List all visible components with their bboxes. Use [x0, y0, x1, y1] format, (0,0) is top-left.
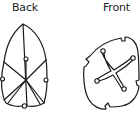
- front-outline: [84, 37, 139, 109]
- diagram-canvas: [0, 0, 140, 124]
- back-left-dot-icon: [1, 77, 5, 81]
- front-arm-dot-icon: [122, 87, 126, 91]
- front-arm-dot-icon: [95, 79, 99, 83]
- back-top-dot-icon: [24, 57, 28, 61]
- front-arm-dot-icon: [101, 49, 105, 53]
- back-bottom-dot-icon: [22, 104, 26, 108]
- front-cross: [97, 52, 133, 89]
- front-arm-dot-icon: [131, 56, 135, 60]
- back-right-dot-icon: [44, 78, 48, 82]
- back-view-figure: [1, 24, 49, 108]
- front-view-figure: [84, 37, 139, 109]
